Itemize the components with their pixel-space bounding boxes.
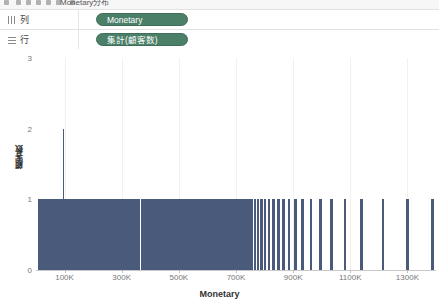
- bar[interactable]: [431, 199, 434, 270]
- y-axis-ticks: 0123: [0, 58, 32, 270]
- save-icon[interactable]: [36, 0, 41, 5]
- plot-area[interactable]: [36, 58, 436, 270]
- bar[interactable]: [330, 199, 333, 270]
- rows-shelf-text: 行: [20, 33, 29, 46]
- bar[interactable]: [344, 199, 347, 270]
- columns-icon: [8, 16, 16, 24]
- bar[interactable]: [294, 199, 297, 270]
- bar[interactable]: [301, 199, 304, 270]
- x-axis-tick-label: 1300K: [396, 273, 419, 282]
- bar[interactable]: [260, 199, 263, 270]
- bar[interactable]: [277, 199, 280, 270]
- x-axis-title: Monetary: [0, 289, 439, 299]
- bar[interactable]: [319, 199, 322, 270]
- x-axis-tick-label: 900K: [284, 273, 303, 282]
- columns-shelf-text: 列: [20, 13, 29, 26]
- bar[interactable]: [360, 199, 363, 270]
- chart-canvas[interactable]: 顧客数 0123 100K300K500K700K900K1100K1300K …: [0, 49, 439, 307]
- columns-shelf-divider: [78, 10, 79, 29]
- bar[interactable]: [264, 199, 267, 270]
- columns-shelf[interactable]: 列 Monetary: [0, 9, 439, 30]
- columns-shelf-label: 列: [8, 13, 29, 26]
- bar[interactable]: [288, 199, 291, 270]
- forward-icon[interactable]: [26, 0, 31, 5]
- y-axis-tick-label: 0: [2, 266, 32, 275]
- y-axis-tick-label: 3: [2, 54, 32, 63]
- rows-shelf-label: 行: [8, 33, 29, 46]
- bar[interactable]: [268, 199, 271, 270]
- pill-monetary[interactable]: Monetary: [96, 13, 188, 26]
- rows-icon: [8, 36, 16, 44]
- y-axis-tick-label: 1: [2, 195, 32, 204]
- y-axis-tick-label: 2: [2, 124, 32, 133]
- rows-shelf-divider: [78, 30, 79, 49]
- undo-icon[interactable]: [46, 0, 51, 5]
- bar[interactable]: [310, 199, 313, 270]
- pill-customer-count[interactable]: 集計(顧客数): [96, 33, 188, 46]
- rows-shelf[interactable]: 行 集計(顧客数): [0, 29, 439, 50]
- menu-icon[interactable]: [4, 0, 9, 5]
- x-axis-tick-label: 1100K: [339, 273, 362, 282]
- bar[interactable]: [257, 199, 260, 270]
- bar[interactable]: [282, 199, 285, 270]
- x-axis-tick-label: 700K: [227, 273, 246, 282]
- bar[interactable]: [272, 199, 275, 270]
- bar[interactable]: [139, 199, 140, 270]
- workbook-title: Monetary分布: [60, 0, 109, 7]
- back-icon[interactable]: [16, 0, 21, 5]
- toolbar-strip: Monetary分布: [0, 0, 439, 9]
- x-axis-tick-label: 100K: [55, 273, 74, 282]
- x-axis-tick-label: 500K: [170, 273, 189, 282]
- gridline-vertical: [350, 58, 351, 270]
- bar[interactable]: [406, 199, 409, 270]
- x-axis-tick-label: 300K: [112, 273, 131, 282]
- bar[interactable]: [382, 199, 385, 270]
- bar[interactable]: [63, 129, 64, 270]
